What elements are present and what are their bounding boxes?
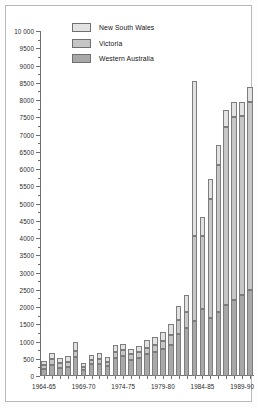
bar-segment-nsw — [184, 295, 190, 312]
x-axis-tick — [171, 376, 172, 379]
bar-segment-vic — [168, 335, 174, 345]
bar — [239, 102, 245, 376]
bar — [65, 356, 71, 376]
y-axis-tick — [36, 100, 40, 101]
y-axis-tick — [36, 169, 40, 170]
bar-segment-nsw — [216, 145, 222, 164]
bar — [113, 345, 119, 376]
bar — [200, 217, 206, 376]
y-axis-minor-tick — [38, 367, 40, 368]
y-axis-tick — [36, 66, 40, 67]
bar-segment-nsw — [160, 332, 166, 341]
x-axis-tick — [210, 376, 211, 379]
bar-segment-wa — [200, 309, 206, 376]
bar-segment-wa — [113, 358, 119, 376]
bar — [176, 306, 182, 376]
bar-segment-wa — [120, 356, 126, 376]
x-axis-tick — [147, 376, 148, 379]
bar-segment-vic — [216, 165, 222, 313]
x-axis-tick — [202, 376, 203, 379]
bar-segment-nsw — [113, 345, 119, 352]
y-axis-tick-label: 5500 — [20, 183, 34, 190]
x-axis-tick — [187, 376, 188, 379]
bar-segment-wa — [192, 321, 198, 376]
y-axis-minor-tick — [38, 91, 40, 92]
x-axis-tick-label: 1984-85 — [191, 383, 215, 390]
bar — [120, 344, 126, 376]
bar — [73, 342, 79, 376]
y-axis-tick-label: 10 000 — [14, 28, 34, 35]
bar — [57, 358, 63, 376]
y-axis-tick-label: 2000 — [20, 304, 34, 311]
bar-segment-wa — [223, 305, 229, 376]
bar — [184, 295, 190, 376]
y-axis-minor-tick — [38, 247, 40, 248]
y-axis-tick — [36, 48, 40, 49]
y-axis-tick — [36, 238, 40, 239]
bar-segment-nsw — [152, 337, 158, 345]
chart-figure: New South Wales Victoria Western Austral… — [0, 0, 258, 408]
y-axis-tick — [36, 152, 40, 153]
bar-segment-wa — [247, 290, 253, 376]
bar-segment-nsw — [247, 87, 253, 101]
bar-segment-vic — [192, 236, 198, 321]
y-axis-minor-tick — [38, 143, 40, 144]
y-axis-minor-tick — [38, 74, 40, 75]
x-axis-tick — [250, 376, 251, 379]
x-axis-tick-label: 1974-75 — [111, 383, 135, 390]
bar-segment-vic — [231, 117, 237, 300]
bar-segment-wa — [89, 364, 95, 376]
bar-segment-wa — [128, 360, 134, 376]
y-axis-minor-tick — [38, 264, 40, 265]
bar-segment-vic — [239, 116, 245, 295]
bar — [192, 81, 198, 376]
bar-segment-nsw — [200, 217, 206, 235]
y-axis-tick — [36, 135, 40, 136]
x-axis-tick — [131, 376, 132, 379]
y-axis-tick — [36, 186, 40, 187]
y-axis-tick — [36, 83, 40, 84]
bar-segment-vic — [152, 345, 158, 352]
bar-segment-wa — [216, 312, 222, 376]
bar — [49, 353, 55, 376]
bar-segment-vic — [200, 236, 206, 310]
x-axis-tick-label: 1969-70 — [72, 383, 96, 390]
bar-segment-wa — [65, 367, 71, 376]
x-axis-tick — [218, 376, 219, 379]
bar-segment-wa — [81, 370, 87, 376]
x-axis-tick-label: 1979-80 — [151, 383, 175, 390]
bar-segment-wa — [152, 352, 158, 376]
x-axis-tick — [179, 376, 180, 379]
x-axis-tick — [226, 376, 227, 379]
bar-segment-nsw — [223, 110, 229, 127]
bar-segment-wa — [49, 365, 55, 376]
y-axis-tick-label: 6500 — [20, 148, 34, 155]
y-axis-minor-tick — [38, 109, 40, 110]
y-axis-tick-label: 7500 — [20, 114, 34, 121]
x-axis-tick — [195, 376, 196, 379]
x-axis-tick — [60, 376, 61, 379]
y-axis-tick — [36, 204, 40, 205]
bar-segment-wa — [136, 358, 142, 376]
bar — [152, 337, 158, 376]
x-axis-tick-label: 1964-65 — [32, 383, 56, 390]
x-axis-tick — [107, 376, 108, 379]
y-axis-tick — [36, 31, 40, 32]
y-axis-minor-tick — [38, 212, 40, 213]
x-axis-tick — [99, 376, 100, 379]
y-axis-tick-label: 4000 — [20, 235, 34, 242]
bar — [160, 332, 166, 376]
x-axis-tick — [242, 376, 243, 379]
bar — [89, 355, 95, 376]
bar — [168, 324, 174, 376]
y-axis-minor-tick — [38, 229, 40, 230]
bar — [231, 102, 237, 376]
bar — [208, 179, 214, 376]
y-axis-line — [40, 31, 41, 376]
x-axis-tick — [76, 376, 77, 379]
legend-label-new-south-wales: New South Wales — [99, 24, 154, 31]
bar-segment-nsw — [192, 81, 198, 236]
y-axis-tick — [36, 290, 40, 291]
x-axis-tick — [163, 376, 164, 379]
bar — [136, 346, 142, 376]
